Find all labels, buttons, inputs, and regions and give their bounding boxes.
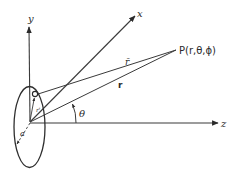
loop-source-point <box>32 91 37 96</box>
r-bar-label: r̄ <box>125 57 130 67</box>
r-prime-label: r' <box>36 106 41 113</box>
r-label: r <box>118 80 123 90</box>
r-vector <box>30 50 176 122</box>
theta-angle-arc <box>73 104 77 123</box>
radius-a-label: a <box>20 129 25 138</box>
x-axis-label: x <box>137 8 143 19</box>
z-axis: z <box>30 118 227 129</box>
z-axis-label: z <box>220 118 227 129</box>
r-bar-vector <box>35 50 176 95</box>
point-p-label: P(r,θ,ϕ) <box>179 45 216 56</box>
theta-label: θ <box>79 108 85 119</box>
loop-field-diagram: y x z r' a θ r̄ r P(r,θ,ϕ) <box>0 0 238 169</box>
y-axis-label: y <box>27 13 34 24</box>
